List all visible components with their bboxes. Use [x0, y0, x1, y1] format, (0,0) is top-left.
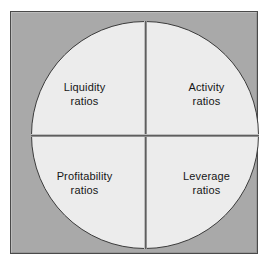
quadrant-label-activity-ratios: Activity ratios [188, 81, 224, 108]
quadrant-label-leverage-ratios: Leverage ratios [183, 170, 230, 197]
quadrant-leverage-ratios: Leverage ratios [147, 137, 260, 250]
quadrant-activity-ratios: Activity ratios [147, 21, 260, 134]
diagram-panel: Liquidity ratios Activity ratios Profita… [10, 11, 258, 254]
figure-root: Liquidity ratios Activity ratios Profita… [0, 0, 267, 263]
quadrant-profitability-ratios: Profitability ratios [31, 137, 144, 250]
quadrant-label-profitability-ratios: Profitability ratios [57, 170, 113, 197]
quadrant-label-liquidity-ratios: Liquidity ratios [64, 81, 106, 108]
ratio-circle: Liquidity ratios Activity ratios Profita… [31, 21, 259, 249]
quadrant-liquidity-ratios: Liquidity ratios [31, 21, 144, 134]
